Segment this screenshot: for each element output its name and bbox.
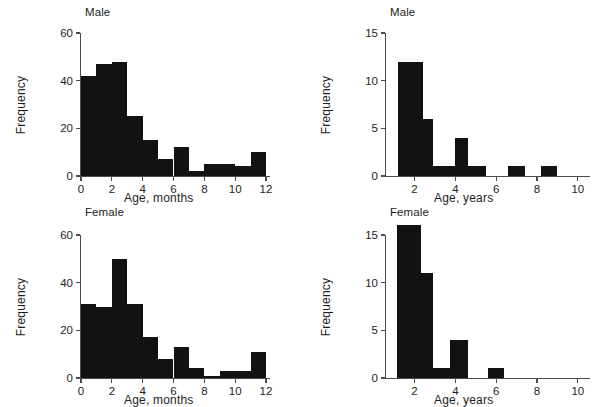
panel-male-age-months: Male Frequency Age, months 0204060024681…	[0, 0, 305, 203]
x-axis-tick-label: 2	[401, 385, 429, 397]
x-axis-tick	[204, 379, 205, 383]
histogram-bar	[96, 64, 111, 176]
histogram-bar	[112, 62, 127, 176]
y-axis-tick-label: 60	[35, 27, 73, 39]
plot-area: 051015246810	[386, 235, 586, 378]
x-axis-tick	[265, 379, 266, 383]
x-axis-tick	[235, 379, 236, 383]
histogram-bar	[143, 140, 158, 176]
y-axis-tick-label: 0	[35, 170, 73, 182]
histogram-bar	[433, 368, 450, 378]
x-axis-tick-label: 8	[190, 385, 218, 397]
y-axis-label: Frequency	[14, 272, 28, 342]
bars-layer	[386, 235, 586, 378]
x-axis-tick-label: 8	[190, 183, 218, 195]
x-axis-tick	[204, 177, 205, 181]
y-axis-tick	[76, 282, 80, 283]
histogram-bar	[143, 337, 158, 378]
x-axis-tick-label: 4	[441, 385, 469, 397]
histogram-bar	[397, 225, 420, 378]
x-axis-tick-label: 10	[564, 183, 592, 195]
histogram-bar	[81, 76, 96, 176]
x-axis-tick-label: 12	[252, 385, 280, 397]
histogram-bar	[508, 166, 524, 176]
y-axis-tick	[76, 377, 80, 378]
y-axis-tick	[76, 32, 80, 33]
panel-title: Female	[85, 206, 124, 218]
y-axis-tick	[381, 234, 385, 235]
panel-male-age-years: Male Frequency Age, years 051015246810	[305, 0, 610, 203]
x-axis-tick-label: 8	[523, 183, 551, 195]
y-axis-tick-label: 0	[340, 372, 378, 384]
histogram-bar	[174, 147, 189, 176]
panel-female-age-years: Female Frequency Age, years 051015246810	[305, 200, 610, 407]
x-axis-tick-label: 12	[252, 183, 280, 195]
y-axis-tick	[381, 32, 385, 33]
y-axis-tick	[381, 282, 385, 283]
x-axis-tick	[414, 177, 415, 181]
x-axis-tick	[111, 379, 112, 383]
histogram-bar	[189, 171, 204, 176]
histogram-bar	[174, 347, 189, 378]
y-axis-tick	[381, 80, 385, 81]
y-axis-tick	[76, 175, 80, 176]
histogram-figure: Male Frequency Age, months 0204060024681…	[0, 0, 610, 407]
y-axis-tick-label: 5	[340, 324, 378, 336]
y-axis-tick-label: 15	[340, 229, 378, 241]
x-axis-tick	[536, 177, 537, 181]
panel-title: Male	[85, 6, 110, 18]
histogram-bar	[127, 304, 142, 378]
x-axis-tick-label: 0	[67, 183, 95, 195]
histogram-bar	[421, 273, 433, 378]
y-axis-label: Frequency	[319, 272, 333, 342]
bars-layer	[81, 235, 266, 378]
y-axis-tick	[76, 128, 80, 129]
x-axis-tick-label: 2	[98, 183, 126, 195]
x-axis-tick	[80, 379, 81, 383]
histogram-bar	[204, 376, 219, 378]
x-axis-tick	[536, 379, 537, 383]
bars-layer	[386, 33, 586, 176]
y-axis-tick	[76, 330, 80, 331]
histogram-bar	[112, 259, 127, 378]
x-axis-tick	[111, 177, 112, 181]
x-axis-tick	[265, 177, 266, 181]
y-axis-tick-label: 20	[35, 122, 73, 134]
histogram-bar	[423, 119, 433, 176]
y-axis-tick-label: 60	[35, 229, 73, 241]
x-axis-tick-label: 10	[564, 385, 592, 397]
x-axis-line	[385, 176, 590, 177]
y-axis-tick-label: 10	[340, 75, 378, 87]
histogram-bar	[220, 371, 235, 378]
bars-layer	[81, 33, 266, 176]
x-axis-tick-label: 6	[160, 183, 188, 195]
x-axis-tick	[142, 177, 143, 181]
plot-area: 0204060024681012	[81, 235, 266, 378]
x-axis-line	[80, 378, 270, 379]
y-axis-tick-label: 10	[340, 277, 378, 289]
y-axis-tick	[76, 80, 80, 81]
y-axis-tick-label: 5	[340, 122, 378, 134]
x-axis-line	[80, 176, 270, 177]
x-axis-tick	[80, 177, 81, 181]
x-axis-tick	[142, 379, 143, 383]
y-axis-tick-label: 40	[35, 75, 73, 87]
plot-area: 051015246810	[386, 33, 586, 176]
x-axis-tick-label: 6	[482, 385, 510, 397]
y-axis-tick	[381, 128, 385, 129]
y-axis-tick	[381, 330, 385, 331]
x-axis-tick	[496, 379, 497, 383]
plot-area: 0204060024681012	[81, 33, 266, 176]
y-axis-tick	[76, 234, 80, 235]
histogram-bar	[81, 304, 96, 378]
x-axis-tick	[414, 379, 415, 383]
y-axis-tick-label: 20	[35, 324, 73, 336]
x-axis-tick-label: 4	[129, 183, 157, 195]
histogram-bar	[127, 116, 142, 176]
y-axis-tick	[381, 377, 385, 378]
x-axis-tick-label: 4	[441, 183, 469, 195]
x-axis-tick	[577, 379, 578, 383]
y-axis-label: Frequency	[14, 70, 28, 140]
x-axis-tick-label: 10	[221, 183, 249, 195]
y-axis-tick-label: 15	[340, 27, 378, 39]
